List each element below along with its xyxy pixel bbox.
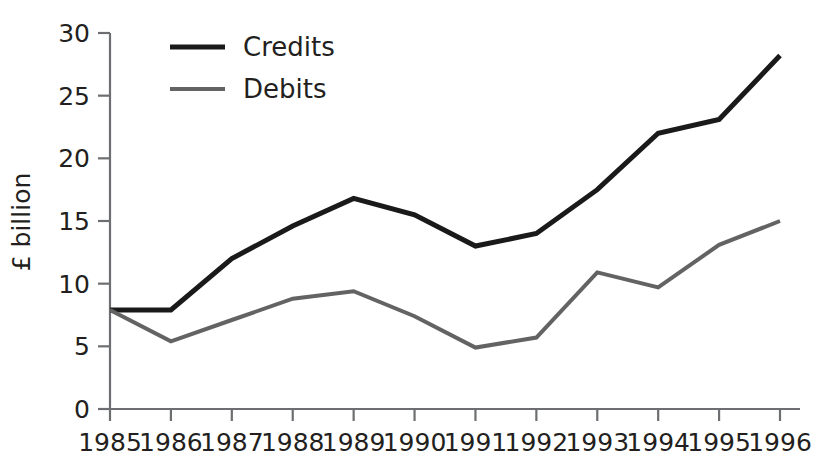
- x-tick-label: 1996: [748, 428, 812, 457]
- chart-canvas: 051015202530 £ billion 19851986198719881…: [0, 0, 821, 465]
- x-tick-label: 1986: [139, 428, 203, 457]
- y-tick-label: 5: [74, 332, 90, 361]
- legend-label-credits: Credits: [243, 32, 335, 62]
- x-tick-label: 1995: [687, 428, 751, 457]
- y-tick-label: 20: [58, 144, 90, 173]
- legend-label-debits: Debits: [243, 74, 326, 104]
- y-tick-label: 0: [74, 395, 90, 424]
- y-tick-label: 15: [58, 207, 90, 236]
- y-tick-label: 30: [58, 19, 90, 48]
- x-tick-label: 1985: [78, 428, 142, 457]
- chart-background: [0, 0, 821, 465]
- x-tick-label: 1993: [565, 428, 629, 457]
- x-tick-label: 1989: [322, 428, 386, 457]
- x-tick-label: 1988: [261, 428, 325, 457]
- y-tick-label: 25: [58, 82, 90, 111]
- y-axis-title: £ billion: [7, 173, 36, 272]
- x-axis-tick-labels: 1985198619871988198919901991199219931994…: [78, 428, 812, 457]
- x-tick-label: 1994: [626, 428, 690, 457]
- x-tick-label: 1991: [444, 428, 508, 457]
- x-tick-label: 1987: [200, 428, 264, 457]
- x-tick-label: 1990: [383, 428, 447, 457]
- y-tick-label: 10: [58, 270, 90, 299]
- line-chart: 051015202530 £ billion 19851986198719881…: [0, 0, 821, 465]
- x-tick-label: 1992: [505, 428, 569, 457]
